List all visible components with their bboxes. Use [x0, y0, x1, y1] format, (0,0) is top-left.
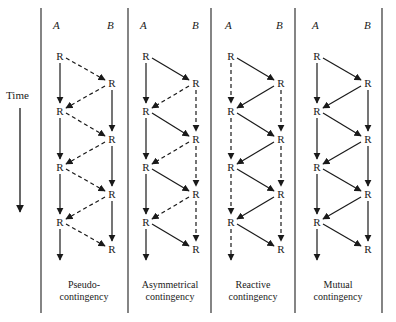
caption-reactive-contingency: Reactive contingency	[211, 279, 295, 303]
caption-line: Mutual	[296, 279, 380, 291]
contingency-diagram: RRRRRRRRRRRRRRRRRRRRRRRRRRRRRRRR	[0, 0, 396, 322]
response-node-b: R	[108, 243, 116, 255]
time-axis-label: Time	[6, 89, 29, 101]
a-to-b-arrow	[323, 58, 361, 80]
response-node-b: R	[192, 243, 200, 255]
response-node-a: R	[56, 161, 64, 173]
b-to-a-arrow	[152, 142, 189, 164]
a-to-b-arrow	[237, 58, 274, 80]
response-node-b: R	[192, 77, 200, 89]
caption-asymmetrical-contingency: Asymmetrical contingency	[128, 279, 212, 303]
b-to-a-arrow	[66, 197, 105, 219]
response-node-a: R	[56, 105, 64, 117]
actor-b-label-asymmetrical: B	[192, 19, 199, 31]
caption-line: contingency	[128, 291, 212, 303]
response-node-a: R	[142, 216, 150, 228]
caption-pseudo-contingency: Pseudo- contingency	[42, 279, 126, 303]
b-to-a-arrow	[152, 197, 189, 219]
response-node-b: R	[108, 77, 116, 89]
a-to-b-arrow	[152, 58, 189, 80]
response-node-b: R	[192, 188, 200, 200]
response-node-b: R	[277, 243, 285, 255]
response-node-b: R	[277, 77, 285, 89]
caption-line: contingency	[296, 291, 380, 303]
b-to-a-arrow	[323, 86, 361, 108]
b-to-a-arrow	[237, 86, 274, 108]
b-to-a-arrow	[237, 197, 274, 219]
caption-line: contingency	[211, 291, 295, 303]
caption-line: Reactive	[211, 279, 295, 291]
response-node-b: R	[108, 133, 116, 145]
a-to-b-arrow	[237, 169, 274, 191]
response-node-a: R	[227, 105, 235, 117]
interaction-arrows	[60, 58, 368, 260]
a-to-b-arrow	[66, 58, 105, 80]
a-to-b-arrow	[323, 224, 361, 246]
caption-mutual-contingency: Mutual contingency	[296, 279, 380, 303]
response-node-a: R	[56, 216, 64, 228]
actor-a-label-reactive: A	[225, 19, 232, 31]
response-node-b: R	[277, 188, 285, 200]
a-to-b-arrow	[152, 113, 189, 136]
b-to-a-arrow	[66, 142, 105, 164]
caption-line: contingency	[42, 291, 126, 303]
actor-a-label-mutual: A	[312, 19, 319, 31]
b-to-a-arrow	[237, 142, 274, 164]
response-node-a: R	[142, 105, 150, 117]
b-to-a-arrow	[152, 86, 189, 108]
response-node-a: R	[227, 161, 235, 173]
actor-b-label-pseudo: B	[107, 19, 114, 31]
a-to-b-arrow	[152, 169, 189, 191]
response-node-a: R	[313, 105, 321, 117]
response-node-b: R	[192, 133, 200, 145]
response-node-a: R	[142, 50, 150, 62]
response-node-b: R	[364, 77, 372, 89]
a-to-b-arrow	[66, 224, 105, 246]
b-to-a-arrow	[66, 86, 105, 108]
response-node-a: R	[56, 50, 64, 62]
b-to-a-arrow	[323, 197, 361, 219]
caption-line: Pseudo-	[42, 279, 126, 291]
response-node-b: R	[364, 243, 372, 255]
caption-line: Asymmetrical	[128, 279, 212, 291]
response-node-b: R	[364, 133, 372, 145]
response-node-a: R	[313, 216, 321, 228]
response-node-a: R	[227, 216, 235, 228]
a-to-b-arrow	[237, 224, 274, 246]
response-node-b: R	[277, 133, 285, 145]
a-to-b-arrow	[66, 169, 105, 191]
response-node-a: R	[313, 50, 321, 62]
response-node-b: R	[108, 188, 116, 200]
panel-dividers	[41, 8, 382, 313]
b-to-a-arrow	[323, 142, 361, 164]
actor-a-label-pseudo: A	[53, 19, 60, 31]
response-node-a: R	[313, 161, 321, 173]
a-to-b-arrow	[66, 113, 105, 136]
actor-b-label-reactive: B	[276, 19, 283, 31]
response-node-b: R	[364, 188, 372, 200]
actor-b-label-mutual: B	[364, 19, 371, 31]
actor-a-label-asymmetrical: A	[140, 19, 147, 31]
a-to-b-arrow	[323, 113, 361, 136]
response-nodes: RRRRRRRRRRRRRRRRRRRRRRRRRRRRRRRR	[56, 50, 372, 255]
response-node-a: R	[227, 50, 235, 62]
response-node-a: R	[142, 161, 150, 173]
a-to-b-arrow	[152, 224, 189, 246]
a-to-b-arrow	[237, 113, 274, 136]
a-to-b-arrow	[323, 169, 361, 191]
